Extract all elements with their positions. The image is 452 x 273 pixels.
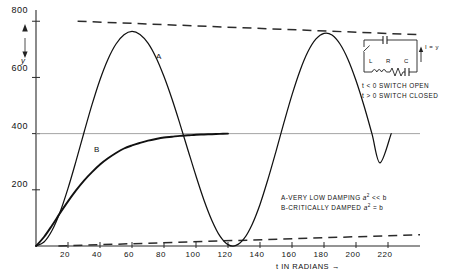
- y-tick-label-200: 200: [2, 179, 28, 189]
- y-axis-label: y: [21, 56, 26, 65]
- x-tick-label-40: 40: [86, 250, 108, 259]
- legend-b-text: B-CRITICALLY DAMPED: [281, 204, 361, 211]
- x-tick-label-100: 100: [182, 250, 204, 259]
- y-axis-arrow: [22, 24, 28, 58]
- inductor-label: L: [369, 58, 373, 64]
- legend-b-exponent: 2: [368, 203, 371, 208]
- switch-closed-note: t > 0 SWITCH CLOSED: [362, 92, 438, 99]
- x-tick-label-140: 140: [246, 250, 268, 259]
- curve-b-critically-damped: [36, 134, 228, 246]
- current-label: I = y: [425, 44, 439, 50]
- circuit-diagram: [363, 36, 423, 76]
- legend-b-relation: = b: [373, 204, 383, 211]
- legend-line-b: B-CRITICALLY DAMPED a2 = b: [281, 203, 383, 211]
- switch-open-note: t < 0 SWITCH OPEN: [362, 82, 429, 89]
- x-tick-label-200: 200: [342, 250, 364, 259]
- x-axis-label: t IN RADIANS→: [276, 262, 340, 271]
- y-tick-label-400: 400: [2, 121, 28, 131]
- x-tick-label-120: 120: [214, 250, 236, 259]
- x-tick-label-20: 20: [54, 250, 76, 259]
- legend-a-relation: << b: [372, 194, 387, 201]
- legend-line-a: A-VERY LOW DAMPING a2 << b: [281, 193, 387, 201]
- curve-b-label: B: [94, 145, 100, 154]
- x-tick-label-60: 60: [118, 250, 140, 259]
- x-tick-label-220: 220: [374, 250, 396, 259]
- upper-envelope-dashed: [78, 21, 420, 34]
- legend-a-exponent: 2: [367, 193, 370, 198]
- y-tick-label-800: 800: [2, 5, 28, 15]
- x-axis-arrow-icon: →: [332, 262, 340, 271]
- resistor-label: R: [386, 58, 391, 64]
- curve-a-very-low-damping: [36, 31, 391, 246]
- damped-oscillation-chart: [0, 0, 452, 273]
- x-tick-label-80: 80: [150, 250, 172, 259]
- x-tick-label-180: 180: [310, 250, 332, 259]
- legend-a-text: A-VERY LOW DAMPING: [281, 194, 361, 201]
- x-tick-label-160: 160: [278, 250, 300, 259]
- capacitor-label: C: [404, 58, 409, 64]
- curve-a-label: A: [156, 52, 162, 61]
- x-axis-label-text: t IN RADIANS: [276, 262, 329, 271]
- plot-area: [32, 10, 420, 248]
